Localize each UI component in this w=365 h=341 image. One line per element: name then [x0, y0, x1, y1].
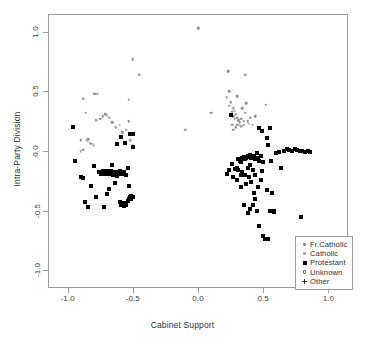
- x-axis-tick-label: 1.0: [323, 294, 334, 303]
- legend: Fr.CatholicCatholicProtestantUnknownOthe…: [295, 236, 353, 290]
- x-axis-tick: [68, 288, 69, 293]
- legend-item-label: Unknown: [310, 268, 342, 277]
- x-axis-label: Cabinet Support: [0, 320, 365, 330]
- y-axis-tick: [43, 211, 48, 212]
- x-axis-tick: [133, 288, 134, 293]
- y-axis-tick-label: 1.0: [31, 26, 40, 37]
- x-axis-tick-label: -1.0: [61, 294, 75, 303]
- legend-item-label: Protestant: [310, 258, 346, 267]
- scatter-plot-figure: -1.0-0.50.00.51.01.00.50.0-0.5-1.0 Cabin…: [0, 0, 365, 341]
- y-axis-label: Intra-Party Division: [12, 69, 22, 229]
- open-circle-icon: [299, 268, 310, 277]
- small-dot-icon: [299, 249, 310, 258]
- y-axis-tick-label: 0.0: [31, 145, 40, 156]
- y-axis-tick: [43, 151, 48, 152]
- legend-item-other: Other: [299, 277, 347, 286]
- x-axis-tick: [198, 288, 199, 293]
- legend-item-unknown: Unknown: [299, 268, 347, 277]
- x-axis-tick-label: 0.5: [257, 294, 268, 303]
- legend-item-label: Other: [310, 277, 330, 286]
- legend-item-catholic: Catholic: [299, 249, 347, 258]
- small-dot-icon: [299, 240, 310, 249]
- y-axis-tick-label: -1.0: [33, 263, 42, 277]
- legend-item-label: Catholic: [310, 249, 338, 258]
- y-axis-tick: [43, 270, 48, 271]
- legend-item-protestant: Protestant: [299, 258, 347, 267]
- y-axis-tick-label: -0.5: [33, 204, 42, 218]
- legend-item-label: Fr.Catholic: [310, 240, 347, 249]
- y-axis-tick-label: 0.5: [31, 86, 40, 97]
- y-axis-tick: [43, 91, 48, 92]
- plus-icon: [299, 277, 310, 286]
- x-axis-tick-label: -0.5: [126, 294, 140, 303]
- filled-square-icon: [299, 258, 310, 267]
- y-axis-tick: [43, 32, 48, 33]
- legend-item-fr-catholic: Fr.Catholic: [299, 240, 347, 249]
- x-axis-tick-label: 0.0: [192, 294, 203, 303]
- x-axis-tick: [263, 288, 264, 293]
